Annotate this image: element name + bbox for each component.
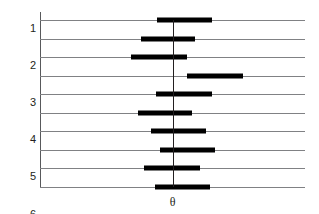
confidence-interval-bar <box>151 129 206 134</box>
y-tick-label: 2 <box>30 60 36 71</box>
y-tick-label: 3 <box>30 97 36 108</box>
confidence-interval-bar <box>160 147 215 152</box>
x-axis-title: θ <box>170 196 176 208</box>
theta-reference-line <box>173 20 175 187</box>
confidence-interval-bar <box>138 110 192 115</box>
confidence-interval-bar <box>155 185 210 190</box>
y-tick-label: 4 <box>30 134 36 145</box>
plot-area: 12345678910 <box>40 12 305 188</box>
y-tick-label: 1 <box>30 23 36 34</box>
y-tick-label: 6 <box>30 208 36 214</box>
confidence-interval-bar <box>141 36 195 41</box>
confidence-interval-bar <box>187 73 243 78</box>
y-tick-label: 5 <box>30 171 36 182</box>
confidence-interval-bar <box>131 55 187 60</box>
confidence-interval-bar <box>157 18 212 23</box>
confidence-interval-bar <box>156 92 212 97</box>
confidence-interval-chart: Amostras 12345678910 θ <box>0 0 319 214</box>
